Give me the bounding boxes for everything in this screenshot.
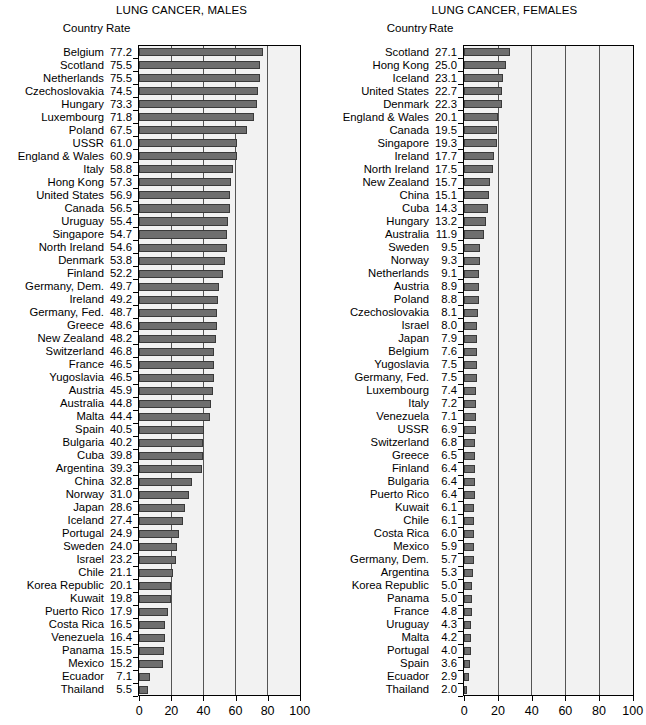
- row-rate-value: 7.1: [431, 410, 457, 422]
- table-row: Hong Kong57.3: [0, 176, 132, 188]
- bar: [464, 61, 506, 69]
- table-row: Argentina39.3: [0, 462, 132, 474]
- row-rate-value: 6.8: [431, 436, 457, 448]
- row-country-label: North Ireland: [364, 163, 429, 175]
- bar: [139, 569, 173, 577]
- row-rate-value: 8.9: [431, 280, 457, 292]
- table-row: Germany, Dem.5.7: [323, 553, 457, 565]
- table-row: North Ireland17.5: [323, 163, 457, 175]
- x-axis-tick-label: 80: [584, 704, 614, 718]
- table-row: Uruguay55.4: [0, 215, 132, 227]
- bar: [464, 452, 475, 460]
- row-rate-value: 17.7: [431, 150, 457, 162]
- table-row: Malta4.2: [323, 631, 457, 643]
- table-row: USSR61.0: [0, 137, 132, 149]
- bar: [139, 517, 183, 525]
- bar: [464, 400, 476, 408]
- row-country-label: Mexico: [393, 540, 429, 552]
- row-country-label: Venezuela: [51, 631, 104, 643]
- row-rate-value: 9.5: [431, 241, 457, 253]
- row-country-label: Sweden: [388, 241, 429, 253]
- row-country-label: Kuwait: [70, 592, 104, 604]
- table-row: Cuba39.8: [0, 449, 132, 461]
- row-country-label: Singapore: [52, 228, 104, 240]
- row-rate-value: 23.2: [106, 553, 132, 565]
- row-rate-value: 9.3: [431, 254, 457, 266]
- table-row: Finland6.4: [323, 462, 457, 474]
- row-rate-value: 22.3: [431, 98, 457, 110]
- row-rate-value: 21.1: [106, 566, 132, 578]
- bar: [464, 660, 470, 668]
- row-country-label: Norway: [391, 254, 429, 266]
- row-country-label: Japan: [398, 332, 429, 344]
- row-rate-value: 6.1: [431, 501, 457, 513]
- row-rate-value: 75.5: [106, 59, 132, 71]
- row-rate-value: 73.3: [106, 98, 132, 110]
- row-rate-value: 53.8: [106, 254, 132, 266]
- bar: [464, 322, 477, 330]
- row-country-label: Ireland: [69, 293, 104, 305]
- table-row: Australia11.9: [323, 228, 457, 240]
- row-rate-value: 7.2: [431, 397, 457, 409]
- row-country-label: Argentina: [56, 462, 104, 474]
- row-rate-value: 8.8: [431, 293, 457, 305]
- bar: [464, 283, 479, 291]
- bar: [139, 48, 263, 56]
- bar: [464, 647, 471, 655]
- row-country-label: Spain: [75, 423, 104, 435]
- row-country-label: Kuwait: [395, 501, 429, 513]
- row-country-label: Yugoslavia: [49, 371, 104, 383]
- row-rate-value: 8.0: [431, 319, 457, 331]
- row-rate-value: 13.2: [431, 215, 457, 227]
- bar: [139, 413, 210, 421]
- bar: [464, 48, 510, 56]
- row-rate-value: 14.3: [431, 202, 457, 214]
- row-rate-value: 23.1: [431, 72, 457, 84]
- chart-panel-males: LUNG CANCER, MALES Country Rate Belgium7…: [0, 0, 323, 725]
- x-axis-tick: [203, 696, 204, 701]
- bar: [139, 504, 185, 512]
- row-rate-value: 9.1: [431, 267, 457, 279]
- row-country-label: Singapore: [377, 137, 429, 149]
- bar: [139, 491, 189, 499]
- row-country-label: China: [399, 189, 429, 201]
- row-country-label: Denmark: [58, 254, 104, 266]
- row-country-label: Greece: [67, 319, 104, 331]
- row-rate-value: 27.4: [106, 514, 132, 526]
- row-country-label: Canada: [389, 124, 429, 136]
- row-rate-value: 6.4: [431, 475, 457, 487]
- table-row: Japan28.6: [0, 501, 132, 513]
- table-row: Poland8.8: [323, 293, 457, 305]
- table-row: Costa Rica6.0: [323, 527, 457, 539]
- x-axis-tick-label: 0: [449, 704, 479, 718]
- row-country-label: USSR: [398, 423, 429, 435]
- table-row: Cuba14.3: [323, 202, 457, 214]
- row-country-label: Uruguay: [386, 618, 429, 630]
- row-country-label: Japan: [73, 501, 104, 513]
- row-rate-value: 45.9: [106, 384, 132, 396]
- table-row: Puerto Rico17.9: [0, 605, 132, 617]
- table-row: China32.8: [0, 475, 132, 487]
- bar: [464, 361, 477, 369]
- bar: [139, 439, 203, 447]
- row-country-label: England & Wales: [18, 150, 104, 162]
- row-country-label: Poland: [394, 293, 429, 305]
- table-row: United States22.7: [323, 85, 457, 97]
- table-row: Puerto Rico6.4: [323, 488, 457, 500]
- table-row: Panama15.5: [0, 644, 132, 656]
- row-country-label: Malta: [76, 410, 104, 422]
- row-rate-value: 17.9: [106, 605, 132, 617]
- row-rate-value: 54.7: [106, 228, 132, 240]
- row-rate-value: 44.8: [106, 397, 132, 409]
- bar: [464, 621, 471, 629]
- row-rate-value: 19.5: [431, 124, 457, 136]
- bar: [139, 361, 214, 369]
- table-row: Netherlands9.1: [323, 267, 457, 279]
- bar: [139, 686, 148, 694]
- table-row: England & Wales20.1: [323, 111, 457, 123]
- row-rate-value: 11.9: [431, 228, 457, 240]
- row-rate-value: 49.2: [106, 293, 132, 305]
- table-row: Czechoslovakia8.1: [323, 306, 457, 318]
- row-rate-value: 17.5: [431, 163, 457, 175]
- row-country-label: Scotland: [60, 59, 104, 71]
